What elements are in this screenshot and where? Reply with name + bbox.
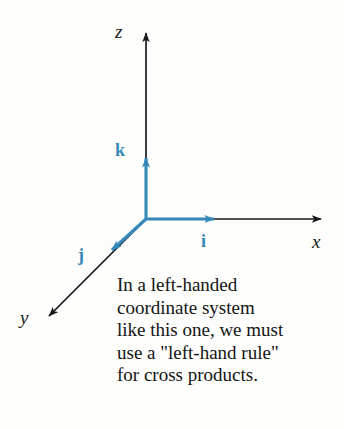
j-vector-line	[112, 219, 146, 250]
coordinate-system-figure: z x y k i j In a left-handed coordinate …	[0, 0, 344, 429]
z-axis-label: z	[115, 22, 122, 41]
k-vector-label: k	[115, 141, 125, 159]
caption-line-3: like this one, we must	[117, 319, 337, 342]
caption-line-5: for cross products.	[117, 364, 337, 387]
caption-line-4: use a "left-hand rule"	[117, 342, 337, 365]
j-vector-label: j	[78, 246, 84, 264]
x-axis-label: x	[312, 232, 320, 251]
caption-line-1: In a left-handed	[117, 274, 337, 297]
caption-line-2: coordinate system	[117, 297, 337, 320]
y-axis-label: y	[20, 308, 28, 327]
i-vector-label: i	[201, 232, 206, 250]
caption-text: In a left-handed coordinate system like …	[117, 274, 337, 387]
